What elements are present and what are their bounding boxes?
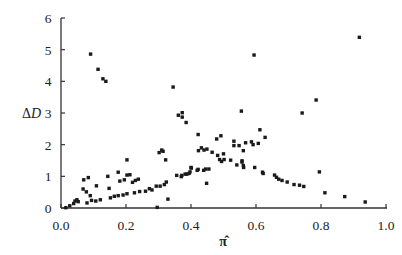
data-point <box>257 142 260 145</box>
data-point <box>180 174 183 177</box>
data-point <box>196 133 199 136</box>
data-point <box>121 193 124 196</box>
data-point <box>205 147 208 150</box>
data-point <box>205 182 208 185</box>
data-point <box>251 143 254 146</box>
data-point <box>232 144 235 147</box>
data-point <box>232 139 235 142</box>
data-point <box>300 111 303 114</box>
data-point <box>314 98 317 101</box>
data-point <box>185 172 188 175</box>
data-point <box>258 128 261 131</box>
x-tick-label: 0.2 <box>118 218 135 233</box>
data-point <box>229 158 232 161</box>
data-point <box>196 168 199 171</box>
data-point <box>298 184 301 187</box>
data-point <box>144 190 147 193</box>
data-point <box>188 170 191 173</box>
data-point <box>113 195 116 198</box>
y-tick-label: 5 <box>45 43 52 58</box>
y-tick-label: 6 <box>45 11 52 26</box>
y-tick-label: 1 <box>45 169 52 184</box>
data-point <box>244 141 247 144</box>
data-point <box>138 190 141 193</box>
data-point <box>197 149 200 152</box>
data-point <box>134 179 137 182</box>
data-point <box>240 160 243 163</box>
data-point <box>166 197 169 200</box>
data-point <box>90 199 93 202</box>
data-point <box>190 166 193 169</box>
data-point <box>85 190 88 193</box>
data-point <box>101 77 104 80</box>
data-point <box>364 200 367 203</box>
y-tick-label: 0 <box>45 201 52 216</box>
data-point <box>77 200 80 203</box>
data-point <box>280 179 283 182</box>
data-point <box>118 179 121 182</box>
data-point <box>82 178 85 181</box>
data-point <box>177 114 180 117</box>
data-point <box>109 196 112 199</box>
data-point <box>204 167 207 170</box>
data-point <box>286 180 289 183</box>
data-point <box>277 177 280 180</box>
data-point <box>94 199 97 202</box>
data-point <box>85 201 88 204</box>
x-tick-label: 1.0 <box>378 218 395 233</box>
data-point <box>125 173 128 176</box>
y-axis: 0123456 <box>45 11 65 216</box>
data-point <box>96 68 99 71</box>
data-point <box>210 151 213 154</box>
y-axis-label-var: D <box>30 106 41 121</box>
y-tick-label: 3 <box>45 106 52 121</box>
data-point <box>106 175 109 178</box>
x-axis: 0.00.20.40.60.81.0 <box>53 204 395 233</box>
data-point <box>252 53 255 56</box>
data-points <box>64 36 367 210</box>
x-tick-label: 0.0 <box>53 218 70 233</box>
scatter-chart: 0123456 0.00.20.40.60.81.0 π̂ ΔD <box>0 0 402 255</box>
data-point <box>164 158 167 161</box>
data-point <box>216 154 219 157</box>
data-point <box>219 134 222 137</box>
x-axis-label: π̂ <box>219 234 230 249</box>
data-point <box>215 137 218 140</box>
data-point <box>150 188 153 191</box>
data-point <box>117 171 120 174</box>
data-point <box>181 115 184 118</box>
data-point <box>318 170 321 173</box>
data-point <box>237 144 240 147</box>
data-point <box>64 206 67 209</box>
data-point <box>137 177 140 180</box>
data-point <box>181 111 184 114</box>
data-point <box>242 166 245 169</box>
data-point <box>128 173 131 176</box>
y-axis-label-delta: Δ <box>22 106 31 121</box>
data-point <box>131 181 134 184</box>
data-point <box>95 184 98 187</box>
data-point <box>302 185 305 188</box>
data-point <box>171 85 174 88</box>
data-point <box>89 52 92 55</box>
data-point <box>261 171 264 174</box>
data-point <box>123 178 126 181</box>
data-point <box>107 187 110 190</box>
data-point <box>99 198 102 201</box>
data-point <box>222 152 225 155</box>
data-point <box>175 174 178 177</box>
data-point <box>155 184 158 187</box>
data-point <box>253 166 256 169</box>
data-point <box>89 194 92 197</box>
data-point <box>104 80 107 83</box>
y-tick-label: 2 <box>45 138 52 153</box>
data-point <box>240 109 243 112</box>
data-point <box>81 187 84 190</box>
data-point <box>117 194 120 197</box>
data-point <box>207 167 210 170</box>
x-tick-label: 0.4 <box>183 218 200 233</box>
x-tick-label: 0.8 <box>313 218 330 233</box>
y-axis-label: ΔD <box>22 106 41 121</box>
data-point <box>184 121 187 124</box>
y-tick-label: 4 <box>45 74 52 89</box>
